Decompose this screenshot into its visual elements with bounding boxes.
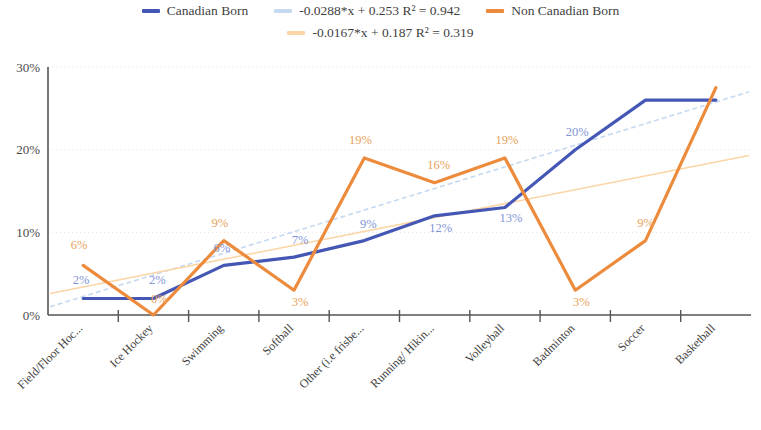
- data-label: 2%: [149, 273, 166, 287]
- legend-swatch-trendline-canadian: [274, 9, 292, 13]
- series-lines: [83, 88, 716, 315]
- data-label: 12%: [429, 221, 452, 235]
- legend-label-trendline-canadian: -0.0288*x + 0.253 R² = 0.942: [299, 4, 460, 18]
- data-label: 19%: [495, 133, 518, 147]
- chart-container: Canadian Born -0.0288*x + 0.253 R² = 0.9…: [0, 0, 761, 430]
- data-label: 6%: [71, 238, 88, 252]
- x-axis-ticks: [118, 310, 680, 322]
- legend-label-trendline-non-canadian: -0.0167*x + 0.187 R² = 0.319: [312, 26, 473, 40]
- data-labels: 2%2%6%7%9%12%13%20%6%0%9%3%19%16%19%3%9%: [71, 125, 654, 310]
- x-axis-category-labels: Field/Floor Hoc...Ice HockeySwimmingSoft…: [15, 321, 719, 392]
- legend-row-2: -0.0167*x + 0.187 R² = 0.319: [0, 22, 761, 44]
- data-label: 3%: [573, 295, 590, 309]
- y-axis-tick-labels: 0%10%20%30%: [16, 60, 40, 323]
- x-axis-category-label: Other (i.e frisbe...: [296, 321, 366, 391]
- data-label: 0%: [151, 292, 168, 306]
- chart-legend: Canadian Born -0.0288*x + 0.253 R² = 0.9…: [0, 0, 761, 44]
- legend-swatch-non-canadian-born: [486, 9, 504, 13]
- data-label: 2%: [73, 273, 90, 287]
- legend-item-non-canadian-born[interactable]: Non Canadian Born: [486, 4, 619, 18]
- x-axis-category-label: Volleyball: [462, 321, 507, 366]
- y-axis-tick-label: 30%: [16, 60, 40, 75]
- legend-swatch-trendline-non-canadian: [287, 31, 305, 35]
- data-label: 9%: [637, 216, 654, 230]
- y-axis-tick-label: 0%: [23, 308, 41, 323]
- data-label: 20%: [566, 125, 589, 139]
- x-axis-category-label: Running/ Hikin...: [367, 321, 436, 390]
- legend-item-trendline-canadian[interactable]: -0.0288*x + 0.253 R² = 0.942: [274, 4, 460, 18]
- y-axis-tick-label: 10%: [16, 225, 40, 240]
- data-label: 9%: [211, 216, 228, 230]
- gridlines: [48, 67, 751, 232]
- legend-row-1: Canadian Born -0.0288*x + 0.253 R² = 0.9…: [0, 0, 761, 22]
- data-label: 3%: [292, 295, 309, 309]
- legend-item-trendline-non-canadian[interactable]: -0.0167*x + 0.187 R² = 0.319: [287, 26, 473, 40]
- legend-label-non-canadian-born: Non Canadian Born: [511, 4, 619, 18]
- x-axis-category-label: Swimming: [179, 321, 226, 368]
- legend-item-canadian-born[interactable]: Canadian Born: [142, 4, 248, 18]
- data-label: 19%: [349, 133, 372, 147]
- y-axis-tick-label: 20%: [16, 142, 40, 157]
- data-label: 16%: [427, 158, 450, 172]
- data-label: 13%: [499, 211, 522, 225]
- x-axis-category-label: Basketball: [672, 321, 718, 367]
- x-axis-category-label: Badminton: [530, 321, 578, 369]
- data-label: 7%: [292, 233, 309, 247]
- x-axis-category-label: Softball: [259, 321, 296, 358]
- x-axis-category-label: Ice Hockey: [107, 321, 156, 370]
- plot-area: 0%10%20%30% 2%2%6%7%9%12%13%20%6%0%9%3%1…: [0, 52, 761, 430]
- data-label: 9%: [360, 217, 377, 231]
- legend-label-canadian-born: Canadian Born: [167, 4, 248, 18]
- line-chart-svg: 0%10%20%30% 2%2%6%7%9%12%13%20%6%0%9%3%1…: [0, 52, 761, 430]
- legend-swatch-canadian-born: [142, 9, 160, 13]
- x-axis-category-label: Field/Floor Hoc...: [15, 321, 86, 392]
- data-label: 6%: [213, 241, 230, 255]
- series-line: [83, 88, 716, 315]
- x-axis-category-label: Soccer: [615, 321, 648, 354]
